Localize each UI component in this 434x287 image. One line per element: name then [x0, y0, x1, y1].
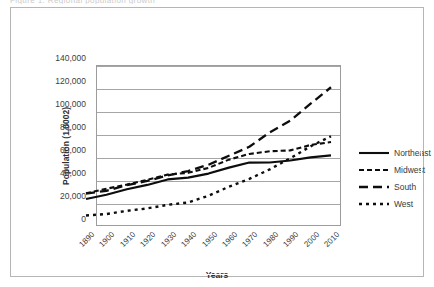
x-axis-title: Years [11, 270, 423, 280]
legend-item-west[interactable]: West [359, 195, 434, 212]
solid-line-key [359, 148, 389, 158]
y-axis-tick-label: 0 [26, 214, 86, 224]
gridline [97, 89, 340, 90]
y-axis-tick-label: 60,000 [26, 145, 86, 155]
legend-item-south[interactable]: South [359, 178, 434, 195]
y-axis-tick-label: 100,000 [26, 99, 86, 109]
chart-legend: NortheastMidwestSouthWest [359, 144, 434, 212]
y-axis-tick-label: 80,000 [26, 122, 86, 132]
y-axis-tick-label: 40,000 [26, 168, 86, 178]
y-axis-tick-label: 120,000 [26, 76, 86, 86]
gridline [97, 66, 340, 67]
y-axis-tick-label: 140,000 [26, 53, 86, 63]
legend-item-midwest[interactable]: Midwest [359, 161, 434, 178]
legend-label: Northeast [394, 148, 431, 158]
gridline [97, 112, 340, 113]
y-axis-tick-label: 20,000 [26, 191, 86, 201]
gridline [97, 181, 340, 182]
legend-item-northeast[interactable]: Northeast [359, 144, 434, 161]
legend-label: West [394, 199, 413, 209]
legend-label: South [394, 182, 416, 192]
gridline [97, 135, 340, 136]
dotted-line-key [359, 199, 389, 209]
short-dash-line-key [359, 165, 389, 175]
figure-caption-fragment: Figure 1. Regional population growth [10, 0, 424, 4]
plot-area [96, 65, 341, 226]
legend-label: Midwest [394, 165, 425, 175]
chart-outer-frame: Population (1,0002) Years NortheastMidwe… [10, 7, 424, 277]
population-line-chart-figure: Figure 1. Regional population growth Pop… [0, 0, 434, 287]
long-dash-line-key [359, 182, 389, 192]
gridline [97, 204, 340, 205]
gridline [97, 158, 340, 159]
